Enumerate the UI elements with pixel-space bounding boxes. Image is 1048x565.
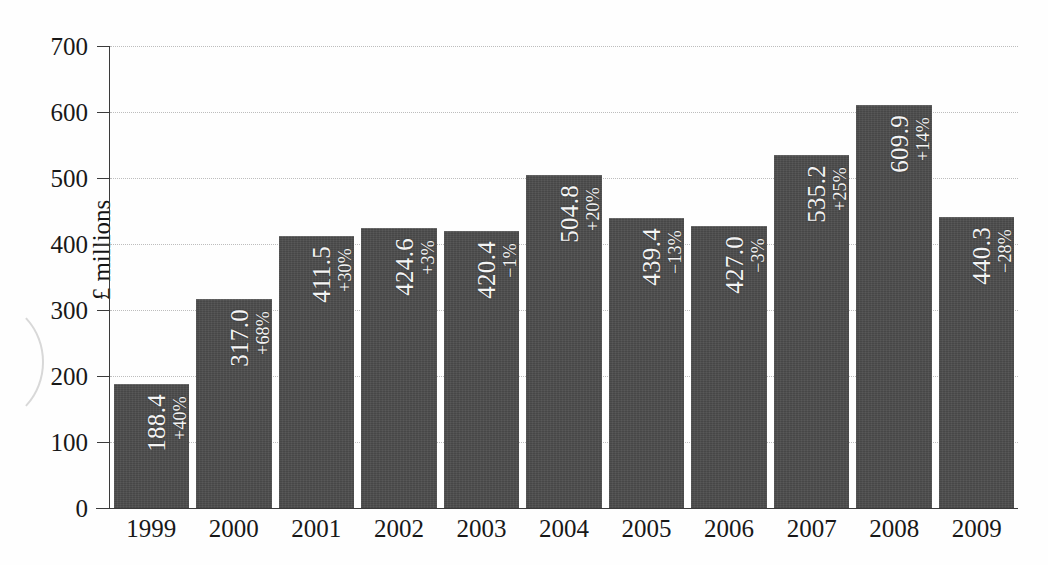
x-axis-tick-label: 2009: [939, 516, 1015, 541]
x-axis-tick-label: 2004: [526, 516, 602, 541]
bar-label-group: +3%424.6: [361, 238, 437, 438]
bar-label-group: −28%440.3: [939, 227, 1015, 427]
bar[interactable]: +3%424.6: [361, 228, 437, 508]
y-axis-tick-label: 500: [0, 166, 88, 191]
x-axis-tick-label: 2008: [856, 516, 932, 541]
x-axis-tick-label: 2000: [196, 516, 272, 541]
bar-label-group: +25%535.2: [774, 165, 850, 365]
bar-value-label: 188.4: [144, 394, 169, 452]
bar[interactable]: −13%439.4: [609, 218, 685, 508]
x-axis-tick-label: 1999: [114, 516, 190, 541]
bar-change-label: +14%: [914, 117, 932, 161]
bar-change-label: −28%: [996, 229, 1014, 273]
bar-value-label: 317.0: [227, 309, 252, 367]
x-axis-tick-label: 2006: [691, 516, 767, 541]
bar-chart: £ millions 0100200300400500600700 +40%18…: [0, 0, 1048, 565]
y-axis-tick-label: 100: [0, 430, 88, 455]
y-axis-tick-label: 600: [0, 100, 88, 125]
y-axis-tick-label: 700: [0, 34, 88, 59]
x-axis-tick-label: 2005: [609, 516, 685, 541]
bar-value-label: 427.0: [722, 236, 747, 294]
bar[interactable]: +14%609.9: [856, 105, 932, 508]
bar-change-label: +40%: [171, 396, 189, 440]
bar-value-label: 504.8: [557, 185, 582, 243]
bar[interactable]: +25%535.2: [774, 155, 850, 508]
x-axis-tick-label: 2007: [774, 516, 850, 541]
bar-change-label: +68%: [254, 311, 272, 355]
bar-label-group: +14%609.9: [856, 115, 932, 315]
plot-area: +40%188.4+68%317.0+30%411.5+3%424.6−1%42…: [110, 46, 1018, 508]
bar-value-label: 411.5: [309, 246, 334, 303]
bar[interactable]: +20%504.8: [526, 175, 602, 508]
bar[interactable]: +68%317.0: [196, 299, 272, 508]
bar-value-label: 535.2: [804, 165, 829, 223]
bar-label-group: −1%420.4: [444, 241, 520, 441]
bar-change-label: +25%: [831, 167, 849, 211]
bar-value-label: 424.6: [392, 238, 417, 296]
bar[interactable]: +40%188.4: [114, 384, 190, 508]
bar-value-label: 440.3: [969, 227, 994, 285]
bar-change-label: −3%: [749, 238, 767, 273]
y-axis-tick-label: 300: [0, 298, 88, 323]
y-axis-tick-label: 200: [0, 364, 88, 389]
bar-label-group: +68%317.0: [196, 309, 272, 509]
bar[interactable]: −3%427.0: [691, 226, 767, 508]
x-axis-tick-label: 2003: [444, 516, 520, 541]
bar[interactable]: −1%420.4: [444, 231, 520, 508]
bar-label-group: +20%504.8: [526, 185, 602, 385]
gridline: [110, 46, 1018, 47]
bar[interactable]: +30%411.5: [279, 236, 355, 508]
y-axis-tick-label: 0: [0, 496, 88, 521]
bar[interactable]: −28%440.3: [939, 217, 1015, 508]
y-axis-tick-label: 400: [0, 232, 88, 257]
bar-change-label: +30%: [336, 248, 354, 292]
bar-value-label: 439.4: [639, 228, 664, 286]
bar-label-group: −3%427.0: [691, 236, 767, 436]
bar-value-label: 609.9: [887, 115, 912, 173]
bar-change-label: −1%: [501, 243, 519, 278]
bar-label-group: +30%411.5: [279, 246, 355, 446]
bar-label-group: −13%439.4: [609, 228, 685, 428]
bar-change-label: +3%: [419, 240, 437, 275]
bar-change-label: +20%: [584, 187, 602, 231]
bar-change-label: −13%: [666, 230, 684, 274]
x-axis-tick-label: 2001: [279, 516, 355, 541]
x-axis-tick-label: 2002: [361, 516, 437, 541]
bar-value-label: 420.4: [474, 241, 499, 299]
